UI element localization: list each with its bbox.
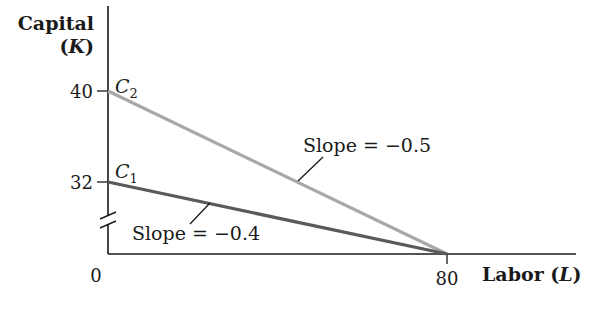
slope-label-c2: Slope = −0.5 — [303, 134, 431, 156]
x-axis-title: Labor (L) — [482, 263, 582, 285]
y-tick-label-40: 40 — [70, 81, 93, 102]
slope-label-c1: Slope = −0.4 — [132, 222, 260, 244]
isocost-chart: Capital (K) 40 32 0 80 Labor (L) C2 C1 S… — [0, 0, 603, 313]
c1-label: C1 — [115, 160, 138, 186]
origin-label: 0 — [90, 265, 101, 286]
x-tick-label-80: 80 — [436, 268, 459, 289]
y-axis-title: Capital — [18, 12, 94, 34]
slope-leader-c2 — [298, 157, 323, 181]
y-tick-label-32: 32 — [70, 172, 93, 193]
slope-leader-c1 — [190, 203, 210, 224]
y-axis-var: (K) — [59, 35, 94, 57]
